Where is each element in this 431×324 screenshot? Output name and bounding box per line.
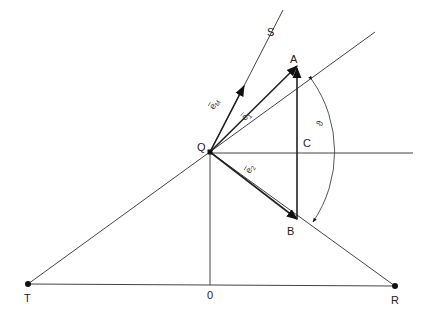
line-QR (210, 152, 395, 286)
label-O: 0 (207, 289, 213, 301)
baseline-TR (28, 284, 395, 286)
label-Q: Q (197, 141, 206, 153)
vector-e2 (210, 152, 297, 219)
label-B: B (287, 225, 294, 237)
angle-arc-theta (312, 80, 335, 222)
label-angle-theta: ϑ (314, 119, 325, 127)
label-S: S (267, 26, 274, 38)
line-TQ-extended (28, 32, 375, 284)
label-vector-eM: eM (207, 97, 222, 112)
label-R: R (391, 294, 399, 306)
label-vector-e2: e2 (243, 162, 257, 175)
point-R (392, 283, 398, 289)
vector-e1 (210, 66, 297, 152)
label-C: C (303, 137, 311, 149)
geometry-diagram: T 0 R Q A B C S eM e1 e2 ϑ (0, 0, 431, 324)
point-Q (208, 150, 213, 155)
label-A: A (290, 53, 298, 65)
vector-eM (210, 86, 244, 152)
point-T (25, 281, 31, 287)
label-T: T (24, 292, 31, 304)
